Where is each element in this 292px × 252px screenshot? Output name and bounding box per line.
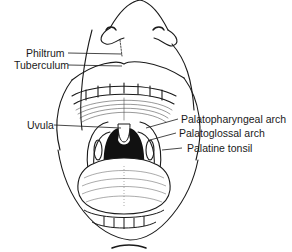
label-philtrum: Philtrum xyxy=(26,47,65,59)
nose xyxy=(101,0,177,46)
label-palatoglossal-arch: Palatoglossal arch xyxy=(179,127,265,139)
tongue xyxy=(78,158,170,214)
label-palatopharyngeal-arch: Palatopharyngeal arch xyxy=(181,113,286,125)
uvula xyxy=(118,124,130,142)
upper-lip xyxy=(72,62,184,80)
label-palatine-tonsil: Palatine tonsil xyxy=(187,142,252,154)
hard-palate xyxy=(76,98,172,122)
label-tuberculum: Tuberculum xyxy=(14,59,69,71)
label-uvula: Uvula xyxy=(27,119,54,131)
